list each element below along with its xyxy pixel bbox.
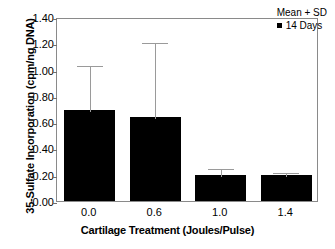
y-axis-tick-mark: [53, 203, 57, 204]
error-bar-cap: [77, 66, 103, 67]
y-axis-tick-mark: [53, 124, 57, 125]
y-tick-label: 0.20: [20, 171, 54, 181]
x-tick-label: 0.6: [124, 206, 184, 218]
error-bar-line: [90, 66, 91, 112]
plot-area: [56, 18, 318, 202]
y-axis-tick-mark: [53, 150, 57, 151]
error-bar-cap: [208, 169, 234, 170]
x-tick-label: 1.0: [190, 206, 250, 218]
y-tick-label: 1.40: [20, 13, 54, 23]
bar: [130, 117, 181, 201]
plot-canvas: [57, 19, 317, 201]
y-tick-label: 0.60: [20, 118, 54, 128]
error-bar-cap: [273, 173, 299, 174]
y-axis-tick-mark: [53, 72, 57, 73]
legend-swatch-icon: [277, 23, 282, 28]
chart-figure: 35-Sulfate Incorporation (cpm/ng DNA) 0.…: [0, 0, 335, 249]
legend-entry-label: 14 Days: [286, 19, 323, 32]
y-tick-label: 0.80: [20, 92, 54, 102]
x-tick-label: 1.4: [255, 206, 315, 218]
y-axis-tick-mark: [53, 98, 57, 99]
y-tick-label: 0.40: [20, 144, 54, 154]
error-bar-cap: [142, 43, 168, 44]
y-tick-label: 1.00: [20, 66, 54, 76]
y-axis-tick-mark: [53, 19, 57, 20]
bar: [64, 110, 115, 201]
y-axis-tick-mark: [53, 177, 57, 178]
chart-legend: Mean + SD 14 Days: [277, 6, 327, 32]
error-bar-line: [221, 169, 222, 177]
x-axis-title: Cartilage Treatment (Joules/Pulse): [0, 224, 335, 236]
bar: [261, 175, 312, 201]
bar: [195, 175, 246, 201]
y-axis-tick-mark: [53, 45, 57, 46]
y-tick-label: 0.00: [20, 197, 54, 207]
x-tick-label: 0.0: [59, 206, 119, 218]
y-axis-tick-labels: 0.00 0.20 0.40 0.60 0.80 1.00 1.20 1.40: [18, 0, 54, 249]
y-tick-label: 1.20: [20, 39, 54, 49]
legend-title: Mean + SD: [277, 6, 327, 19]
legend-entry: 14 Days: [277, 19, 327, 32]
error-bar-line: [155, 43, 156, 119]
